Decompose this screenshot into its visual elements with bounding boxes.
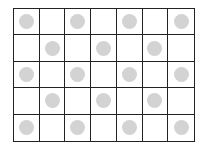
grid-cell — [143, 115, 169, 141]
grid-cell — [91, 88, 117, 114]
circle-marker-icon — [147, 93, 162, 108]
circle-marker-icon — [70, 67, 85, 82]
grid-cell — [14, 9, 40, 35]
circle-marker-icon — [19, 14, 34, 29]
grid-cell — [168, 88, 194, 114]
circle-marker-icon — [96, 41, 111, 56]
circle-marker-icon — [70, 14, 85, 29]
grid-cell — [14, 35, 40, 61]
grid-cell — [143, 88, 169, 114]
grid-cell — [40, 115, 66, 141]
grid-cell — [168, 35, 194, 61]
grid-cell — [14, 115, 40, 141]
grid-cell — [117, 62, 143, 88]
grid-cell — [117, 115, 143, 141]
grid-cell — [143, 35, 169, 61]
circle-marker-icon — [147, 41, 162, 56]
grid-cell — [91, 35, 117, 61]
grid-cell — [65, 88, 91, 114]
grid-cell — [143, 9, 169, 35]
circle-marker-icon — [19, 120, 34, 135]
circle-marker-icon — [70, 120, 85, 135]
grid-cell — [117, 35, 143, 61]
circle-marker-icon — [45, 41, 60, 56]
circle-marker-icon — [19, 67, 34, 82]
grid-cell — [40, 62, 66, 88]
grid-cell — [14, 62, 40, 88]
grid-cell — [40, 9, 66, 35]
circle-marker-icon — [122, 120, 137, 135]
grid-cell — [40, 88, 66, 114]
circle-marker-icon — [174, 67, 189, 82]
circle-marker-icon — [122, 14, 137, 29]
grid-cell — [65, 62, 91, 88]
circle-marker-icon — [96, 93, 111, 108]
grid-cell — [40, 35, 66, 61]
grid-cell — [65, 35, 91, 61]
grid-cell — [117, 9, 143, 35]
circle-marker-icon — [174, 120, 189, 135]
grid-cell — [168, 115, 194, 141]
grid-cell — [168, 62, 194, 88]
checker-grid — [13, 8, 195, 142]
grid-cell — [91, 9, 117, 35]
grid-cell — [91, 62, 117, 88]
circle-marker-icon — [122, 67, 137, 82]
grid-cell — [65, 115, 91, 141]
circle-marker-icon — [174, 14, 189, 29]
grid-cell — [168, 9, 194, 35]
grid-cell — [143, 62, 169, 88]
grid-cell — [65, 9, 91, 35]
grid-cell — [91, 115, 117, 141]
grid-cell — [117, 88, 143, 114]
circle-marker-icon — [45, 93, 60, 108]
grid-cell — [14, 88, 40, 114]
